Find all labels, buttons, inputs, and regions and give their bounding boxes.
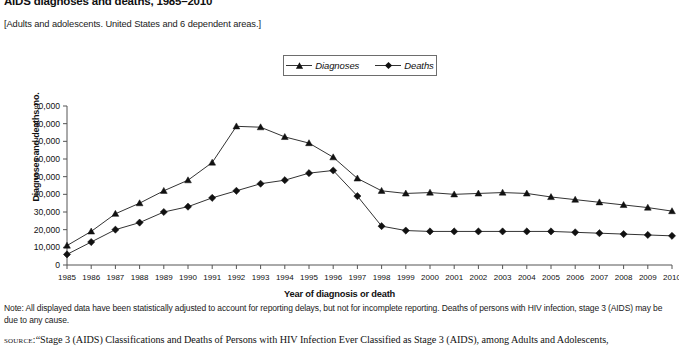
data-point-diagnoses (185, 177, 192, 183)
figure-page: AIDS diagnoses and deaths, 1985–2010 [Ad… (0, 0, 679, 352)
x-axis-tick-label: 1993 (252, 273, 270, 282)
x-axis-tick-label: 1992 (228, 273, 246, 282)
x-axis-tick-label: 2004 (518, 273, 536, 282)
figure-note: Note: All displayed data have been stati… (4, 303, 676, 326)
data-point-diagnoses (112, 210, 119, 216)
x-axis-tick-label: 2005 (542, 273, 560, 282)
data-point-deaths (209, 194, 216, 201)
chart-plot-area: 010,00020,00030,00040,00050,00060,00070,… (0, 0, 679, 300)
data-point-deaths (620, 230, 627, 237)
x-axis-label: Year of diagnosis or death (0, 289, 679, 299)
y-axis-label: Diagnoses and deaths, no. (31, 67, 41, 227)
x-axis-tick-label: 1985 (58, 273, 76, 282)
data-point-deaths (305, 170, 312, 177)
data-point-deaths (523, 228, 530, 235)
source-text: “Stage 3 (AIDS) Classifications and Deat… (36, 334, 609, 345)
figure-source: source:“Stage 3 (AIDS) Classifications a… (4, 334, 679, 346)
x-axis-tick-label: 1999 (397, 273, 415, 282)
data-point-diagnoses (378, 187, 385, 193)
data-point-diagnoses (88, 228, 95, 234)
x-axis-tick-label: 2006 (566, 273, 584, 282)
x-axis-tick-label: 1991 (203, 273, 221, 282)
x-axis-tick-label: 1995 (300, 273, 318, 282)
series-line-deaths (67, 170, 672, 254)
x-axis-tick-label: 2007 (591, 273, 609, 282)
data-point-deaths (402, 227, 409, 234)
y-axis-tick-label: 0 (55, 260, 60, 270)
x-axis-tick-label: 2003 (494, 273, 512, 282)
data-point-deaths (451, 228, 458, 235)
data-point-diagnoses (281, 134, 288, 140)
x-axis-tick-label: 2001 (445, 273, 463, 282)
data-point-deaths (63, 251, 70, 258)
data-point-deaths (596, 230, 603, 237)
data-point-deaths (572, 229, 579, 236)
data-point-deaths (281, 177, 288, 184)
data-point-deaths (88, 238, 95, 245)
data-point-deaths (257, 180, 264, 187)
x-axis-tick-label: 1990 (179, 273, 197, 282)
data-point-diagnoses (330, 154, 337, 160)
x-axis-tick-label: 2009 (639, 273, 657, 282)
source-keyword: source: (4, 335, 36, 345)
x-axis-tick-label: 2002 (470, 273, 488, 282)
data-point-deaths (668, 232, 675, 239)
x-axis-tick-label: 1998 (373, 273, 391, 282)
line-chart: 010,00020,00030,00040,00050,00060,00070,… (0, 0, 679, 300)
data-point-deaths (112, 226, 119, 233)
data-point-deaths (499, 228, 506, 235)
y-axis-tick-label: 10,000 (34, 242, 61, 252)
x-axis-tick-label: 1987 (107, 273, 125, 282)
data-point-diagnoses (136, 200, 143, 206)
x-axis-tick-label: 1997 (349, 273, 367, 282)
data-point-deaths (136, 219, 143, 226)
x-axis-tick-label: 2000 (421, 273, 439, 282)
x-axis-tick-label: 1994 (276, 273, 294, 282)
series-line-diagnoses (67, 126, 672, 245)
x-axis-tick-label: 1986 (82, 273, 100, 282)
data-point-diagnoses (64, 242, 71, 248)
data-point-deaths (160, 208, 167, 215)
data-point-diagnoses (209, 159, 216, 165)
data-point-diagnoses (160, 187, 167, 193)
x-axis-tick-label: 1989 (155, 273, 173, 282)
data-point-deaths (644, 231, 651, 238)
x-axis-tick-label: 2010 (663, 273, 679, 282)
x-axis-tick-label: 1988 (131, 273, 149, 282)
x-axis-tick-label: 2008 (615, 273, 633, 282)
data-point-deaths (426, 228, 433, 235)
data-point-deaths (184, 203, 191, 210)
data-point-deaths (547, 228, 554, 235)
data-point-deaths (475, 228, 482, 235)
data-point-deaths (233, 187, 240, 194)
x-axis-tick-label: 1996 (324, 273, 342, 282)
